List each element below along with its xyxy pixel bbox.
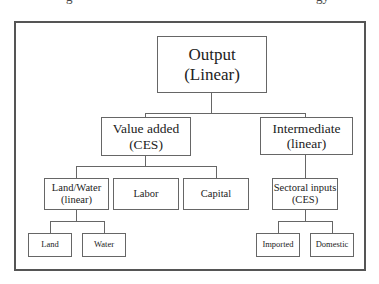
node-label: Domestic — [316, 240, 349, 250]
connector-value-added-down — [145, 155, 146, 166]
title-fragment-left: g — [66, 0, 73, 5]
node-label: Land — [41, 240, 58, 250]
node-output: Output (Linear) — [157, 36, 267, 93]
node-imported: Imported — [256, 233, 300, 257]
node-land-water: Land/Water (linear) — [44, 178, 109, 210]
node-sublabel: (CES) — [129, 137, 163, 152]
connector-to-sectoral — [305, 154, 306, 178]
node-capital: Capital — [183, 178, 249, 210]
connector-level3-right-bar — [278, 221, 333, 222]
node-label: Intermediate — [272, 121, 340, 136]
connector-root-down — [211, 92, 212, 113]
node-label: Land/Water — [52, 182, 101, 194]
connector-sectoral-down — [305, 210, 306, 221]
node-sectoral-inputs: Sectoral inputs (CES) — [272, 178, 338, 210]
node-water: Water — [82, 233, 126, 257]
node-land: Land — [28, 233, 72, 257]
connector-to-land-water — [76, 166, 77, 178]
node-sublabel: (linear) — [61, 194, 92, 206]
node-labor: Labor — [113, 178, 179, 210]
cut-off-title: g gy — [0, 0, 379, 3]
connector-level2-bar — [76, 166, 217, 167]
node-sublabel: (linear) — [287, 136, 327, 151]
node-sublabel: (CES) — [292, 194, 318, 206]
connector-to-water — [104, 221, 105, 233]
connector-land-water-down — [76, 210, 77, 221]
node-label: Imported — [262, 240, 293, 250]
node-label: Value added — [113, 121, 179, 136]
connector-to-capital — [216, 166, 217, 178]
connector-to-domestic — [332, 221, 333, 233]
connector-to-imported — [278, 221, 279, 233]
node-intermediate: Intermediate (linear) — [260, 117, 353, 155]
node-value-added: Value added (CES) — [101, 117, 191, 156]
connector-level1-bar — [145, 113, 306, 114]
connector-to-land — [50, 221, 51, 233]
node-label: Capital — [201, 188, 231, 200]
node-label: Water — [94, 240, 114, 250]
node-label: Labor — [133, 188, 158, 200]
connector-level3-left-bar — [50, 221, 105, 222]
node-sublabel: (Linear) — [184, 65, 240, 84]
title-fragment-right: gy — [316, 0, 329, 5]
node-label: Output — [188, 45, 235, 64]
node-label: Sectoral inputs — [274, 182, 337, 194]
node-domestic: Domestic — [310, 233, 354, 257]
